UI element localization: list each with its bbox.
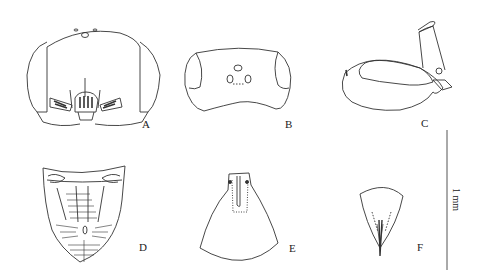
panel-a-drawing (27, 29, 160, 126)
panel-e-label: E (289, 242, 296, 254)
panel-e-drawing (200, 173, 278, 260)
panel-f-drawing (360, 187, 403, 256)
panel-a-label: A (142, 118, 150, 130)
figure-canvas (0, 0, 484, 280)
panel-b-label: B (285, 118, 292, 130)
scale-bar-label: 1 mm (451, 188, 462, 211)
panel-b-drawing (185, 48, 291, 111)
panel-f-label: F (417, 241, 423, 253)
panel-c-drawing (342, 22, 452, 111)
panel-d-drawing (43, 166, 125, 262)
panel-c-label: C (421, 117, 428, 129)
panel-d-label: D (139, 241, 147, 253)
